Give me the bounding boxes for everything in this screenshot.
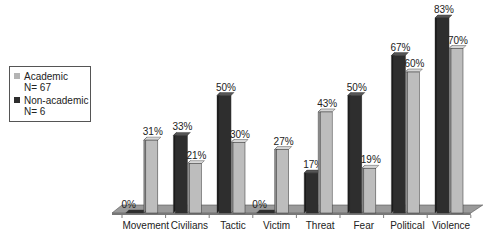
value-label: 19% [361,154,381,165]
value-label: 21% [186,150,206,161]
value-label: 50% [216,82,236,93]
bar-academic-victim [275,147,292,213]
category-label-political: Political [390,220,424,231]
bar-academic-political [405,69,422,213]
value-label: 27% [274,136,294,147]
category-group-threat: 17%43%Threat [303,98,337,231]
value-label: 83% [434,4,454,15]
category-label-violence: Violence [432,220,471,231]
value-label: 43% [317,98,337,109]
bar-academic-tactic [231,140,248,214]
category-label-threat: Threat [306,220,335,231]
value-label: 50% [347,82,367,93]
category-group-victim: 0%27%Victim [252,136,293,231]
category-label-fear: Fear [354,220,375,231]
bar-academic-violence [449,46,466,214]
value-label: 70% [448,35,468,46]
chart-floor-edge [112,213,471,215]
category-group-violence: 83%70%Violence [432,4,471,231]
bar-academic-threat [318,109,335,213]
value-label: 60% [404,58,424,69]
value-label: 31% [143,126,163,137]
category-label-tactic: Tactic [220,220,246,231]
value-label: 33% [172,121,192,132]
category-group-political: 67%60%Political [390,42,424,231]
category-group-tactic: 50%30%Tactic [216,82,250,232]
bar-academic-movement [144,137,161,213]
category-label-victim: Victim [263,220,290,231]
category-label-civilians: Civilians [171,220,208,231]
value-label: 30% [230,129,250,140]
category-group-movement: 0%31%Movement [122,126,170,231]
value-label: 0% [122,199,137,210]
category-label-movement: Movement [122,220,169,231]
chart-floor [112,205,483,213]
value-label: 67% [390,42,410,53]
value-label: 0% [252,199,267,210]
bar-chart: 0%31%Movement33%21%Civilians50%30%Tactic… [0,0,484,244]
category-group-fear: 50%19%Fear [347,82,381,232]
